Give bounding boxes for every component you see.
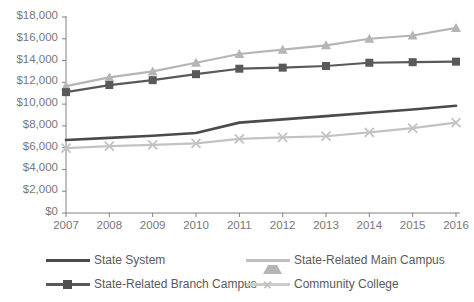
x-tick-label: 2016 bbox=[434, 219, 474, 231]
series-line bbox=[66, 62, 456, 92]
data-point-square bbox=[365, 59, 373, 67]
legend-item-main-campus[interactable]: State-Related Main Campus bbox=[246, 249, 445, 271]
legend-label-main-campus: State-Related Main Campus bbox=[294, 253, 445, 267]
legend-key-state-system bbox=[46, 253, 90, 267]
data-point-square bbox=[62, 88, 70, 96]
series-community-college bbox=[62, 118, 461, 153]
legend-key-main-campus bbox=[246, 253, 290, 267]
data-point-square bbox=[279, 64, 287, 72]
data-point-square bbox=[235, 65, 243, 73]
data-point-square bbox=[409, 58, 417, 66]
legend-label-branch-campus: State-Related Branch Campus bbox=[94, 277, 257, 291]
x-tick-label: 2011 bbox=[217, 219, 261, 231]
legend-key-community-college bbox=[246, 277, 290, 291]
square-marker-icon bbox=[63, 280, 72, 289]
series-state-system bbox=[66, 106, 456, 140]
triangle-marker-icon bbox=[263, 256, 282, 274]
series-line bbox=[66, 106, 456, 140]
data-point-square bbox=[192, 70, 200, 78]
series-state-related-branch-campus bbox=[62, 58, 460, 96]
x-tick-label: 2015 bbox=[391, 219, 435, 231]
legend-key-branch-campus bbox=[46, 277, 90, 291]
legend-item-state-system[interactable]: State System bbox=[46, 249, 165, 271]
legend-item-community-college[interactable]: Community College bbox=[246, 273, 399, 295]
series-state-related-main-campus bbox=[61, 23, 461, 90]
x-marker-icon bbox=[263, 280, 272, 289]
series-line bbox=[66, 123, 456, 149]
x-tick-label: 2007 bbox=[44, 219, 88, 231]
data-point-square bbox=[452, 58, 460, 66]
x-tick-label: 2008 bbox=[87, 219, 131, 231]
x-tick-label: 2009 bbox=[131, 219, 175, 231]
legend-item-branch-campus[interactable]: State-Related Branch Campus bbox=[46, 273, 257, 295]
legend-label-community-college: Community College bbox=[294, 277, 399, 291]
x-tick-label: 2010 bbox=[174, 219, 218, 231]
chart-legend: State System State-Related Main Campus S… bbox=[40, 249, 464, 297]
x-tick-label: 2013 bbox=[304, 219, 348, 231]
series-line bbox=[66, 28, 456, 86]
data-point-square bbox=[105, 81, 113, 89]
x-tick-label: 2014 bbox=[347, 219, 391, 231]
legend-label-state-system: State System bbox=[94, 253, 165, 267]
data-point-square bbox=[149, 76, 157, 84]
x-tick-label: 2012 bbox=[261, 219, 305, 231]
data-point-square bbox=[322, 62, 330, 70]
